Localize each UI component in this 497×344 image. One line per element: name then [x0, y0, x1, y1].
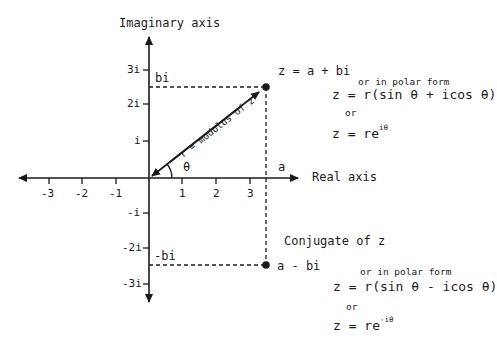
x-tick-label: -3	[41, 188, 54, 199]
conjugate-polar-equation: z = r(sin θ - icos θ)	[333, 280, 497, 293]
x-tick-label: 2	[213, 188, 220, 199]
y-tick-marks	[143, 70, 149, 284]
y-tick-label: -3i	[122, 278, 142, 289]
y-tick-label: 2i	[127, 98, 140, 109]
x-tick-label: 3	[247, 188, 254, 199]
conjugate-point-label: a - bi	[277, 260, 320, 272]
theta-label: θ	[183, 161, 190, 173]
conjugate-title: Conjugate of z	[284, 235, 385, 247]
projection-lines	[149, 87, 266, 265]
point-conjugate	[262, 261, 270, 269]
real-axis-label: Real axis	[312, 171, 377, 183]
z-title: z = a + bi	[278, 65, 350, 77]
imaginary-axis-label: Imaginary axis	[119, 17, 220, 29]
y-tick-label: 3i	[127, 64, 140, 75]
modulus-label: r = modulus of z	[177, 95, 256, 160]
conjugate-exponential: z = re-iθ	[333, 319, 394, 332]
x-tick-label: 1	[179, 188, 186, 199]
z-polar-caption: or in polar form	[358, 77, 450, 87]
conjugate-polar-caption: or in polar form	[360, 267, 452, 277]
neg-bi-label: -bi	[154, 250, 176, 262]
x-tick-label: -1	[109, 188, 122, 199]
angle-arc	[167, 164, 172, 178]
conjugate-or: or	[346, 302, 357, 312]
z-polar-equation: z = r(sin θ + icos θ)	[332, 88, 496, 101]
y-tick-label: -i	[127, 207, 140, 218]
y-tick-label: i	[134, 135, 141, 146]
a-label: a	[278, 161, 285, 173]
bi-label: bi	[155, 72, 169, 84]
point-z	[262, 83, 270, 91]
x-tick-label: -2	[75, 188, 88, 199]
z-exponential: z = reiθ	[332, 127, 388, 140]
y-tick-label: -2i	[122, 242, 142, 253]
z-or: or	[345, 108, 356, 118]
